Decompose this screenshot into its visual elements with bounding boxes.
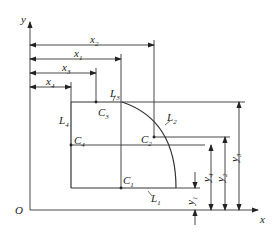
dim-y1-label: y1 (185, 197, 199, 205)
origin-label: O (15, 205, 23, 216)
dim-y2-label: y2 (215, 174, 229, 182)
edge-L1-label: L1 (151, 193, 161, 207)
dim-x1-label: x1 (74, 48, 82, 62)
dim-x2-label: x2 (90, 34, 98, 48)
y-axis-label: y (21, 14, 26, 25)
centroid-C4-label: C4 (74, 135, 85, 149)
edge-L3-label: L3 (110, 88, 120, 102)
x-axis-label: x (260, 214, 265, 225)
edge-L2-label: L2 (167, 112, 177, 126)
centroid-C2-label: C2 (141, 134, 152, 148)
centroid-C3-label: C3 (98, 107, 109, 121)
diagram-canvas (0, 0, 279, 239)
centroid-C1-label: C1 (123, 175, 134, 189)
edge-L4-label: L4 (59, 115, 69, 129)
dim-x4-label: x4 (46, 76, 54, 90)
dim-x3-label: x3 (62, 62, 70, 76)
dim-y3-label: y3 (229, 154, 243, 162)
